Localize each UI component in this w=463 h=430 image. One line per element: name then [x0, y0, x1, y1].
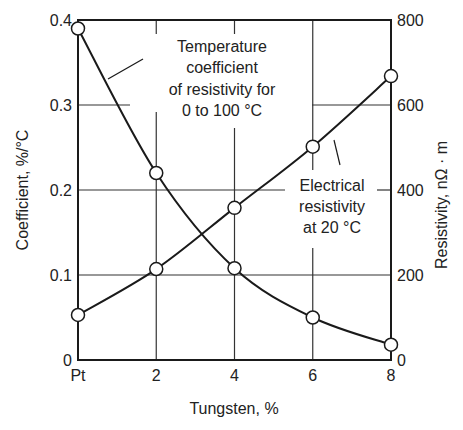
annotation-leader — [334, 140, 340, 165]
data-point-marker — [306, 311, 319, 324]
annotation-leader — [108, 59, 143, 79]
x-axis-label: Tungsten, % — [189, 400, 278, 417]
data-point-marker — [150, 167, 163, 180]
coefficient-annotation-line: coefficient — [186, 59, 258, 76]
left-tick-label: 0.3 — [50, 97, 72, 114]
chart: 00.10.20.30.4 0200400600800 Pt2468 Tempe… — [0, 0, 463, 430]
data-point-marker — [228, 201, 241, 214]
x-tick-label: 8 — [387, 367, 396, 384]
data-point-marker — [150, 263, 163, 276]
right-tick-label: 0 — [397, 352, 406, 369]
right-tick-label: 600 — [397, 97, 424, 114]
right-tick-label: 200 — [397, 267, 424, 284]
x-tick-label: 6 — [308, 367, 317, 384]
x-axis-ticks: Pt2468 — [70, 367, 395, 384]
coefficient-annotation-line: 0 to 100 °C — [182, 102, 262, 119]
data-point-marker — [72, 22, 85, 35]
left-tick-label: 0.1 — [50, 267, 72, 284]
coefficient-annotation-line: of resistivity for — [169, 81, 276, 98]
left-tick-label: 0.2 — [50, 182, 72, 199]
x-tick-label: 2 — [152, 367, 161, 384]
left-tick-label: 0.4 — [50, 12, 72, 29]
data-point-marker — [228, 262, 241, 275]
resistivity-annotation-line: Electrical — [300, 177, 365, 194]
left-axis-ticks: 00.10.20.30.4 — [50, 12, 72, 369]
right-y-axis-label: Resistivity, nΩ · m — [433, 141, 450, 269]
data-point-marker — [306, 140, 319, 153]
right-tick-label: 400 — [397, 182, 424, 199]
resistivity-annotation-line: resistivity — [299, 198, 365, 215]
resistivity-annotation-line: at 20 °C — [303, 219, 361, 236]
x-tick-label: Pt — [70, 367, 86, 384]
x-tick-label: 4 — [230, 367, 239, 384]
data-point-marker — [72, 308, 85, 321]
data-point-marker — [385, 70, 398, 83]
right-tick-label: 800 — [397, 12, 424, 29]
data-point-marker — [385, 338, 398, 351]
left-y-axis-label: Coefficient, %/°C — [14, 130, 31, 251]
coefficient-annotation-line: Temperature — [177, 38, 267, 55]
right-axis-ticks: 0200400600800 — [397, 12, 424, 369]
